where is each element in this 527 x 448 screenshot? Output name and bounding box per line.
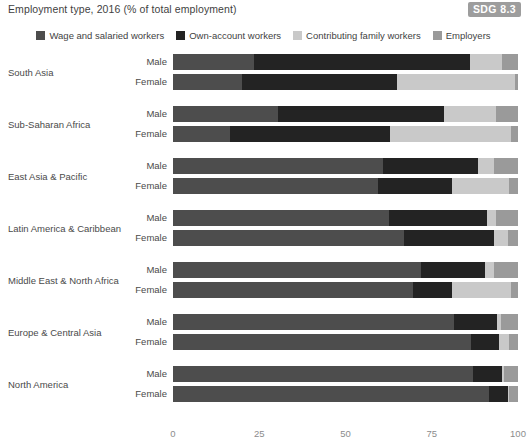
sex-label-female: Female — [110, 126, 167, 142]
region-group: Middle East & North AfricaMaleFemale — [0, 262, 527, 298]
bar-segment-contributing — [494, 230, 508, 246]
sex-label-male: Male — [110, 54, 167, 70]
stacked-bar — [173, 210, 518, 226]
bar-segment-wage — [173, 334, 471, 350]
sex-label-male: Male — [110, 366, 167, 382]
bar-segment-employers — [496, 106, 518, 122]
stacked-bar — [173, 126, 518, 142]
sex-label-male: Male — [110, 158, 167, 174]
bar-segment-wage — [173, 366, 473, 382]
legend-swatch-contributing — [293, 31, 302, 40]
bar-segment-contributing — [444, 106, 496, 122]
legend-swatch-wage — [36, 31, 45, 40]
bar-segment-employers — [509, 334, 518, 350]
bar-segment-employers — [509, 386, 518, 402]
bar-segment-wage — [173, 314, 454, 330]
bar-row: Male — [0, 158, 527, 174]
sex-label-male: Male — [110, 314, 167, 330]
bar-segment-wage — [173, 230, 404, 246]
legend-item-employers: Employers — [433, 30, 491, 41]
bar-row: Male — [0, 262, 527, 278]
bar-row: Male — [0, 314, 527, 330]
stacked-bar — [173, 314, 518, 330]
bar-row: Male — [0, 366, 527, 382]
bar-segment-own-account — [242, 74, 397, 90]
sdg-badge: SDG 8.3 — [468, 2, 521, 17]
bar-segment-own-account — [413, 282, 453, 298]
bar-segment-employers — [502, 54, 518, 70]
page-title: Employment type, 2016 (% of total employ… — [8, 3, 237, 15]
sex-label-female: Female — [110, 230, 167, 246]
bar-segment-employers — [496, 210, 518, 226]
bar-row: Female — [0, 386, 527, 402]
bar-segment-own-account — [278, 106, 444, 122]
sex-label-female: Female — [110, 386, 167, 402]
bar-row: Male — [0, 54, 527, 70]
bar-segment-own-account — [389, 210, 487, 226]
stacked-bar — [173, 74, 518, 90]
bar-segment-own-account — [383, 158, 478, 174]
bar-segment-own-account — [471, 334, 499, 350]
bar-row: Female — [0, 126, 527, 142]
legend-label: Wage and salaried workers — [49, 30, 164, 41]
bar-segment-contributing — [478, 158, 494, 174]
bar-segment-employers — [511, 126, 518, 142]
legend-label: Employers — [446, 30, 491, 41]
bar-segment-employers — [511, 282, 518, 298]
stacked-bar — [173, 386, 518, 402]
chart-header: Employment type, 2016 (% of total employ… — [0, 0, 527, 20]
bar-segment-contributing — [470, 54, 503, 70]
bar-segment-own-account — [378, 178, 452, 194]
bar-segment-own-account — [454, 314, 497, 330]
stacked-bar — [173, 282, 518, 298]
sex-label-female: Female — [110, 178, 167, 194]
bar-segment-wage — [173, 178, 378, 194]
region-group: East Asia & PacificMaleFemale — [0, 158, 527, 194]
bar-segment-employers — [508, 230, 518, 246]
bar-segment-own-account — [489, 386, 508, 402]
legend-label: Contributing family workers — [306, 30, 421, 41]
bar-segment-own-account — [404, 230, 494, 246]
bar-segment-own-account — [254, 54, 470, 70]
bar-segment-wage — [173, 386, 489, 402]
bar-segment-wage — [173, 158, 383, 174]
bar-segment-own-account — [473, 366, 502, 382]
bar-segment-wage — [173, 54, 254, 70]
region-group: South AsiaMaleFemale — [0, 54, 527, 90]
stacked-bar — [173, 230, 518, 246]
x-axis-tick: 0 — [170, 428, 175, 439]
bar-segment-wage — [173, 282, 413, 298]
stacked-bar — [173, 178, 518, 194]
legend-swatch-own-account — [176, 31, 185, 40]
bar-row: Male — [0, 106, 527, 122]
bar-segment-employers — [509, 178, 518, 194]
stacked-bar — [173, 54, 518, 70]
bar-segment-own-account — [421, 262, 485, 278]
bar-row: Female — [0, 334, 527, 350]
bar-segment-employers — [504, 366, 518, 382]
bar-row: Female — [0, 74, 527, 90]
chart-plot-area: South AsiaMaleFemaleSub-Saharan AfricaMa… — [0, 48, 527, 426]
bar-segment-contributing — [485, 262, 494, 278]
bar-row: Female — [0, 282, 527, 298]
x-axis-tick: 25 — [254, 428, 265, 439]
x-axis-tick: 75 — [426, 428, 437, 439]
legend-swatch-employers — [433, 31, 442, 40]
bar-row: Female — [0, 178, 527, 194]
bar-segment-contributing — [390, 126, 511, 142]
sex-label-female: Female — [110, 334, 167, 350]
bar-segment-employers — [515, 74, 518, 90]
stacked-bar — [173, 158, 518, 174]
legend-item-own-account: Own-account workers — [176, 30, 281, 41]
stacked-bar — [173, 106, 518, 122]
stacked-bar — [173, 334, 518, 350]
bar-segment-own-account — [230, 126, 390, 142]
bar-segment-wage — [173, 262, 421, 278]
bar-row: Male — [0, 210, 527, 226]
bar-segment-wage — [173, 74, 242, 90]
legend-label: Own-account workers — [189, 30, 281, 41]
chart-legend: Wage and salaried workersOwn-account wor… — [0, 26, 527, 44]
bar-segment-wage — [173, 210, 389, 226]
bar-row: Female — [0, 230, 527, 246]
region-group: North AmericaMaleFemale — [0, 366, 527, 402]
